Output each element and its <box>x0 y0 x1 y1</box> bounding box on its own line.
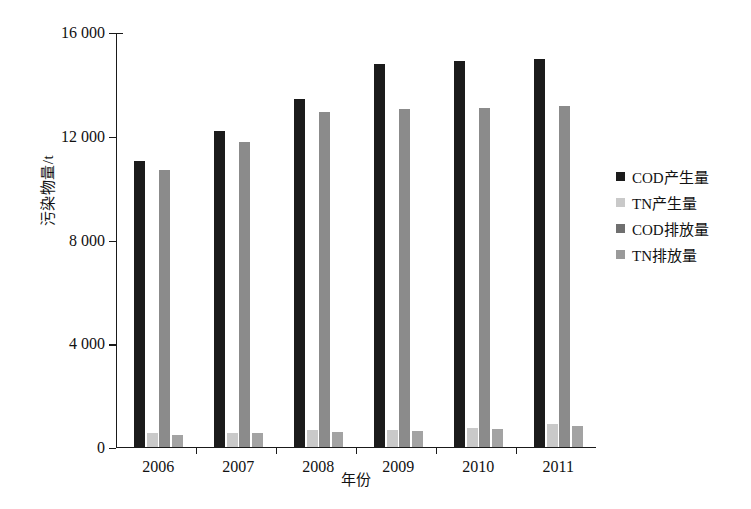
bar <box>307 430 318 447</box>
legend-item-label: COD产生量 <box>632 166 709 187</box>
x-axis-tick <box>356 448 357 454</box>
y-axis-tick-label: 4 000 <box>69 335 105 353</box>
bar <box>159 170 170 446</box>
bar <box>227 433 238 447</box>
y-axis-title: 污染物量/t <box>36 121 57 261</box>
chart-figure: 污染物量/t 04 0008 00012 00016 000 200620072… <box>0 0 751 509</box>
bar <box>294 99 305 447</box>
legend-item: TN排放量 <box>616 241 751 267</box>
y-axis-tick-label: 0 <box>97 439 105 457</box>
legend-item: TN产生量 <box>616 189 751 215</box>
bar <box>252 433 263 446</box>
bar <box>492 429 503 447</box>
bar <box>134 161 145 446</box>
y-axis-tick <box>109 448 116 449</box>
y-axis-tick <box>109 344 116 345</box>
bar <box>319 112 330 447</box>
legend-item: COD排放量 <box>616 215 751 241</box>
legend-swatch-icon <box>616 172 625 181</box>
legend-item-label: COD排放量 <box>632 218 709 239</box>
legend-swatch-icon <box>616 198 625 207</box>
bar <box>147 433 158 446</box>
y-axis-top-cap <box>116 33 123 34</box>
y-axis-tick <box>109 137 116 138</box>
legend-swatch-icon <box>616 224 625 233</box>
x-axis-title: 年份 <box>116 468 596 489</box>
bar <box>374 64 385 447</box>
bar <box>547 424 558 446</box>
y-axis-tick <box>109 33 116 34</box>
bar <box>467 428 478 447</box>
bar <box>214 131 225 446</box>
bar <box>559 106 570 446</box>
bar <box>399 109 410 446</box>
x-axis-tick <box>516 448 517 454</box>
bar <box>534 59 545 447</box>
legend-swatch-icon <box>616 250 625 259</box>
x-axis-tick <box>276 448 277 454</box>
bar <box>412 431 423 447</box>
plot-area: 04 0008 00012 00016 000 2006200720082009… <box>116 33 596 448</box>
bar <box>332 432 343 447</box>
bar <box>454 61 465 446</box>
y-axis-tick-label: 12 000 <box>61 128 105 146</box>
legend-item-label: TN产生量 <box>632 192 697 213</box>
bar <box>172 435 183 446</box>
bar <box>239 142 250 447</box>
x-axis-tick <box>196 448 197 454</box>
legend-item: COD产生量 <box>616 163 751 189</box>
y-axis-tick <box>109 241 116 242</box>
x-axis-tick <box>436 448 437 454</box>
y-axis-tick-label: 16 000 <box>61 24 105 42</box>
y-axis-line <box>116 33 117 448</box>
chart-legend: COD产生量TN产生量COD排放量TN排放量 <box>616 163 751 267</box>
bar <box>572 426 583 447</box>
legend-item-label: TN排放量 <box>632 244 697 265</box>
bar <box>387 430 398 447</box>
bar <box>479 108 490 446</box>
y-axis-tick-label: 8 000 <box>69 232 105 250</box>
